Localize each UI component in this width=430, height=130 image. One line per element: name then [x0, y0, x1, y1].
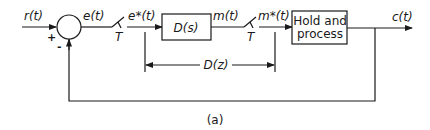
- sampler-2-tick: [250, 22, 253, 28]
- sampled-controller-output-label: m*(t): [258, 9, 290, 23]
- dimension-label: D(z): [204, 58, 229, 72]
- summing-junction: [57, 15, 81, 39]
- plus-sign: +: [47, 31, 56, 44]
- sampler-1-tick: [118, 22, 121, 28]
- plant-block-label-line2: process: [297, 27, 343, 41]
- plant-block-label-line1: Hold and: [293, 14, 347, 28]
- output-label: c(t): [392, 10, 413, 24]
- controller-block-label: D(s): [174, 21, 199, 35]
- block-diagram: r(t) + - e(t) T e*(t) D(s) m(t) T m*(t) …: [0, 0, 430, 130]
- sampled-error-label: e*(t): [128, 9, 155, 23]
- sampler-2-period: T: [247, 30, 256, 44]
- controller-output-label: m(t): [213, 9, 239, 23]
- sampler-1-period: T: [115, 30, 124, 44]
- figure-caption: (a): [207, 113, 224, 127]
- minus-sign: -: [57, 40, 62, 53]
- error-label: e(t): [83, 9, 104, 23]
- input-label: r(t): [24, 9, 43, 23]
